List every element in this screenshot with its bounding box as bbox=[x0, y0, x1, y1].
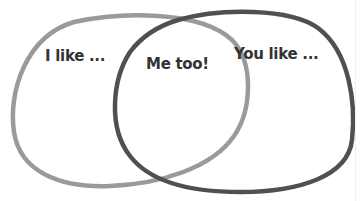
set-left-label: I like ... bbox=[45, 47, 105, 65]
image-edge-divider bbox=[355, 0, 356, 201]
venn-canvas bbox=[0, 0, 360, 201]
intersection-label: Me too! bbox=[146, 55, 209, 73]
set-right-label: You like ... bbox=[234, 45, 318, 63]
venn-set-left-outline bbox=[13, 15, 248, 186]
venn-set-right-outline bbox=[115, 12, 353, 192]
